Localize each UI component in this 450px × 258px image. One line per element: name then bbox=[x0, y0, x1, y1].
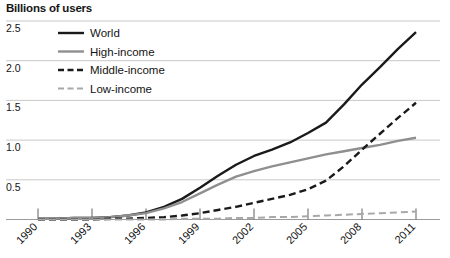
y-tick-label: 1.0 bbox=[6, 141, 21, 153]
x-tick-label: 2008 bbox=[338, 220, 364, 246]
legend-label: Middle-income bbox=[90, 64, 165, 76]
line-chart-svg: 0.51.01.52.02.5 199019931996199920022005… bbox=[0, 0, 450, 258]
y-tick-label: 0.5 bbox=[6, 181, 21, 193]
y-tick-label: 2.0 bbox=[6, 62, 21, 74]
x-tick-label: 1990 bbox=[14, 220, 40, 246]
series-line bbox=[38, 103, 416, 220]
x-tick-label: 2005 bbox=[284, 220, 310, 246]
x-tick-label: 1996 bbox=[122, 220, 148, 246]
x-tick-label: 2002 bbox=[230, 220, 256, 246]
legend-label: High-income bbox=[90, 46, 155, 58]
x-tick-label: 1999 bbox=[176, 220, 202, 246]
gridlines-group bbox=[6, 21, 440, 180]
legend-label: Low-income bbox=[90, 83, 152, 95]
series-line bbox=[38, 138, 416, 219]
y-tick-labels-group: 0.51.01.52.02.5 bbox=[6, 22, 21, 193]
chart-container: Billions of users 0.51.01.52.02.5 199019… bbox=[0, 0, 450, 258]
y-tick-label: 2.5 bbox=[6, 22, 21, 34]
legend-label: World bbox=[90, 27, 120, 39]
y-tick-label: 1.5 bbox=[6, 101, 21, 113]
x-tick-label: 2011 bbox=[392, 220, 417, 245]
series-line bbox=[38, 32, 416, 219]
x-tick-label: 1993 bbox=[68, 220, 94, 246]
x-tick-labels-group: 19901993199619992002200520082011 bbox=[14, 220, 418, 246]
